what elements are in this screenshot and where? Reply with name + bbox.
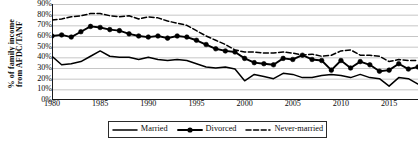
legend-item: Never-married [245,125,323,135]
series-marker [368,63,373,68]
series-marker [213,47,218,52]
y-axis-tick: 50% [37,43,52,51]
legend-swatch [112,125,138,135]
y-axis-tick: 60% [37,32,52,40]
series-marker [406,67,411,72]
chart-canvas [52,4,418,100]
series-marker [175,34,180,39]
y-axis-title: % of family income from AFDC/TANF [0,0,32,108]
series-marker [136,34,141,39]
series-marker [262,61,267,66]
x-axis-tick: 2000 [237,100,253,108]
series-marker [252,60,257,65]
y-axis-tick: 10% [37,85,52,93]
series-marker [88,24,93,29]
legend-swatch [245,125,271,135]
y-axis-tick: 20% [37,75,52,83]
x-axis-tick: 2015 [381,100,397,108]
series-marker [223,49,228,54]
series-marker [358,59,363,64]
x-axis-tick: 1980 [44,100,60,108]
series-marker [416,65,418,70]
series-marker [204,42,209,47]
x-axis-tick: 2010 [333,100,349,108]
legend-swatch [177,125,203,135]
legend-label: Divorced [206,125,237,133]
series-marker [329,68,334,73]
legend-item: Married [112,125,168,135]
series-marker [156,34,161,39]
series-marker [290,57,295,62]
series-marker [165,36,170,41]
x-axis-tick: 1990 [140,100,156,108]
series-marker [117,28,122,33]
series-marker [319,58,324,63]
plot-area: 0%10%20%30%40%50%60%70%80%90% 1980198519… [30,4,418,108]
chart-legend: MarriedDivorcedNever-married [108,121,327,138]
series-line-divorced [52,26,418,71]
series-marker [107,27,112,32]
series-marker [271,63,276,68]
y-axis-tick: 30% [37,64,52,72]
chart-figure: % of family income from AFDC/TANF 0%10%2… [0,0,420,144]
series-marker [377,69,382,74]
series-marker [310,57,315,62]
y-axis-tick: 40% [37,53,52,61]
series-marker [194,38,199,43]
y-axis-tick: 70% [37,21,52,29]
series-marker [185,35,190,40]
x-axis-tick-labels: 19801985199019952000200520102015 [52,100,418,114]
y-axis-tick-labels: 0%10%20%30%40%50%60%70%80%90% [30,4,52,108]
x-axis-tick: 2005 [285,100,301,108]
y-axis-title-line2: from AFDC/TANF [16,21,24,87]
legend-label: Married [141,125,168,133]
x-axis-tick: 1995 [188,100,204,108]
legend-marker [187,127,192,132]
y-axis-tick: 80% [37,11,52,19]
series-marker [396,61,401,66]
series-marker [146,35,151,40]
legend-label: Never-married [274,125,323,133]
series-marker [127,32,132,37]
series-marker [348,66,353,71]
series-marker [69,35,74,40]
series-marker [281,56,286,61]
series-marker [52,34,54,39]
series-marker [242,56,247,61]
legend-item: Divorced [177,125,237,135]
series-marker [387,68,392,73]
x-axis-tick: 1985 [92,100,108,108]
series-marker [98,25,103,30]
series-marker [59,33,64,38]
y-axis-tick: 90% [37,0,52,8]
series-marker [79,29,84,34]
series-marker [339,58,344,63]
